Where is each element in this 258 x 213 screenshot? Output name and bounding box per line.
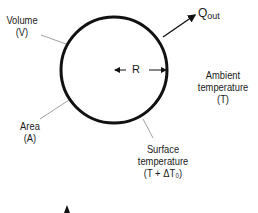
area-label: Area (A) xyxy=(15,120,46,144)
heat-flow-arrow xyxy=(163,15,195,37)
volume-label-line2: (V) xyxy=(5,26,39,38)
area-leader-line xyxy=(40,100,69,119)
bottom-arrowhead-icon xyxy=(64,205,70,213)
ambient-label-line1: Ambient xyxy=(193,69,253,81)
surface-label-line3: (T + ΔT₀) xyxy=(133,167,193,179)
area-label-line2: (A) xyxy=(15,132,46,144)
surface-label-line2: temperature xyxy=(133,155,193,167)
volume-leader-line xyxy=(41,35,66,44)
surface-temperature-label: Surface temperature (T + ΔT₀) xyxy=(133,143,193,179)
radius-label: R xyxy=(131,63,141,75)
volume-label-line1: Volume xyxy=(5,14,39,26)
ambient-temperature-label: Ambient temperature (T) xyxy=(193,69,253,105)
heat-flow-subscript: out xyxy=(207,11,220,21)
surface-leader-line xyxy=(143,119,153,138)
heat-flow-symbol: Q xyxy=(198,6,207,20)
volume-label: Volume (V) xyxy=(5,14,39,38)
area-label-line1: Area xyxy=(15,120,46,132)
heat-flow-label: Qout xyxy=(198,6,220,21)
surface-label-line1: Surface xyxy=(133,143,193,155)
ambient-label-line2: temperature xyxy=(193,81,253,93)
ambient-label-line3: (T) xyxy=(193,93,253,105)
